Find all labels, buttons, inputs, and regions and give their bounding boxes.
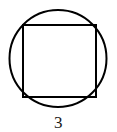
inscribed-square-shape [23, 25, 96, 97]
side-length-label: 3 [0, 113, 117, 132]
geometry-figure: 3 [0, 0, 117, 132]
